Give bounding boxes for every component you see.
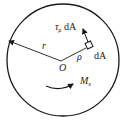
radius-label: r	[42, 40, 46, 51]
moment-label: Mx	[79, 75, 91, 87]
area-element-square	[85, 41, 93, 49]
shear-force-label: τρ dA	[55, 21, 77, 33]
area-element-label: dA	[94, 50, 107, 61]
torsion-diagram: τρ dA dA r ρ O Mx	[0, 0, 125, 121]
center-label: O	[59, 62, 66, 73]
rho-line	[61, 48, 86, 61]
radius-line	[9, 41, 61, 61]
rho-label: ρ	[76, 51, 82, 62]
shear-force-arrow	[83, 29, 88, 42]
moment-arrow	[46, 84, 73, 89]
